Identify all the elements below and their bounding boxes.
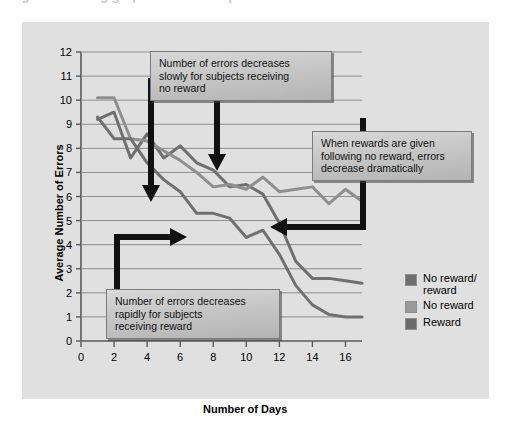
y-tick-label: 10: [60, 94, 72, 106]
y-tick-label: 6: [66, 191, 72, 203]
legend-swatch-no-reward-reward: [405, 274, 417, 286]
y-tick-label: 5: [66, 215, 72, 227]
callout-line: rapidly for subjects: [115, 308, 272, 321]
cutoff-header-text: Figure Learning graph of reward experime…: [10, 0, 283, 3]
x-axis-ticks: [81, 341, 345, 347]
annotation-callout-no-reward: Number of errors decreases slowly for su…: [150, 51, 332, 101]
y-axis-title: Average Number of Errors: [53, 133, 65, 293]
legend-label-no-reward-reward: No reward/ reward: [423, 272, 477, 296]
y-tick-label: 9: [66, 118, 72, 130]
x-tick-label: 10: [240, 351, 252, 363]
callout-line: When rewards are given: [321, 137, 464, 150]
annotation-callout-rewards-given: When rewards are given following no rewa…: [312, 131, 472, 181]
callout-line: Number of errors decreases: [115, 295, 272, 308]
right-arrow-shaft: [117, 237, 170, 292]
y-tick-label: 2: [66, 287, 72, 299]
y-tick-label: 12: [60, 46, 72, 58]
y-tick-label: 3: [66, 263, 72, 275]
figure-panel: 0123456789101112 0246810121416 Number of…: [22, 22, 489, 399]
x-axis-tick-labels: 0246810121416: [78, 351, 352, 363]
callout-line: following no reward, errors: [321, 150, 464, 163]
cutoff-header-strip: Figure Learning graph of reward experime…: [0, 0, 512, 14]
y-tick-label: 8: [66, 142, 72, 154]
callout-line: slowly for subjects receiving: [159, 70, 324, 83]
legend-swatch-reward: [405, 318, 417, 330]
x-tick-label: 2: [111, 351, 117, 363]
x-tick-label: 16: [339, 351, 351, 363]
callout-line: decrease dramatically: [321, 162, 464, 175]
down-arrow-left-head: [142, 185, 160, 202]
x-axis-title: Number of Days: [203, 403, 287, 415]
legend-label-reward: Reward: [423, 316, 461, 328]
x-tick-label: 12: [273, 351, 285, 363]
callout-line: no reward: [159, 82, 324, 95]
y-tick-label: 11: [61, 70, 72, 82]
legend-item-no-reward: No reward: [405, 299, 500, 313]
x-tick-label: 0: [78, 351, 84, 363]
x-tick-label: 4: [144, 351, 150, 363]
legend-item-reward: Reward: [405, 316, 500, 330]
y-tick-label: 1: [66, 311, 72, 323]
callout-line: receiving reward: [115, 320, 272, 333]
legend-label-no-reward: No reward: [423, 299, 474, 311]
y-tick-label: 7: [66, 166, 72, 178]
y-tick-label: 4: [66, 239, 72, 251]
callout-line: Number of errors decreases: [159, 57, 324, 70]
right-arrow-head: [170, 228, 187, 246]
legend-label-part: reward: [423, 284, 457, 296]
x-tick-label: 6: [177, 351, 183, 363]
y-tick-label: 0: [66, 335, 72, 347]
legend-item-no-reward-reward: No reward/ reward: [405, 272, 500, 296]
annotation-callout-reward: Number of errors decreases rapidly for s…: [106, 289, 280, 339]
chart-legend: No reward/ reward No reward Reward: [405, 272, 500, 333]
legend-label-part: No reward/: [423, 272, 477, 284]
x-tick-label: 14: [306, 351, 318, 363]
legend-swatch-no-reward: [405, 301, 417, 313]
x-tick-label: 8: [210, 351, 216, 363]
